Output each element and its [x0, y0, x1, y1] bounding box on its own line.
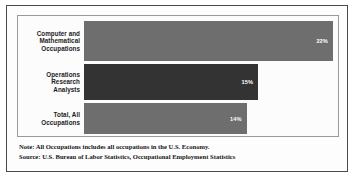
bar-row: Operations Research Analysts 15% [18, 64, 338, 100]
bar-computer-and-mathematical-occupations: 22% [84, 21, 333, 61]
bars-container: Computer and Mathematical Occupations 22… [18, 16, 338, 136]
bar-category-label: Operations Research Analysts [18, 71, 84, 94]
bar-track: 22% [84, 21, 338, 61]
bar-category-label-line: Computer and [18, 30, 80, 38]
bar-category-label: Total, All Occupations [18, 111, 84, 126]
bar-total-all-occupations: 14% [84, 103, 247, 134]
bar-category-label-line: Operations [18, 71, 80, 79]
bar-category-label-line: Mathematical [18, 37, 80, 45]
bar-category-label-line: Analysts [18, 86, 80, 94]
footnote-source: Source: U.S. Bureau of Labor Statistics,… [19, 152, 337, 162]
bar-category-label-line: Research [18, 78, 80, 86]
bar-category-label-line: Total, All [18, 111, 80, 119]
bar-operations-research-analysts: 15% [84, 64, 258, 100]
bar-value-label: 14% [230, 116, 242, 122]
bar-category-label-line: Occupations [18, 119, 80, 127]
footnote-note: Note: All Occupations includes all occup… [19, 142, 337, 152]
bar-value-label: 22% [316, 38, 328, 44]
bar-track: 14% [84, 103, 338, 134]
bar-track: 15% [84, 64, 338, 100]
chart-footnotes: Note: All Occupations includes all occup… [19, 142, 337, 161]
bar-category-label: Computer and Mathematical Occupations [18, 30, 84, 53]
bar-row: Computer and Mathematical Occupations 22… [18, 21, 338, 61]
bar-value-label: 15% [241, 79, 253, 85]
chart-figure: Computer and Mathematical Occupations 22… [6, 5, 348, 172]
bar-row: Total, All Occupations 14% [18, 103, 338, 134]
plot-area: Computer and Mathematical Occupations 22… [17, 15, 339, 137]
bar-category-label-line: Occupations [18, 45, 80, 53]
